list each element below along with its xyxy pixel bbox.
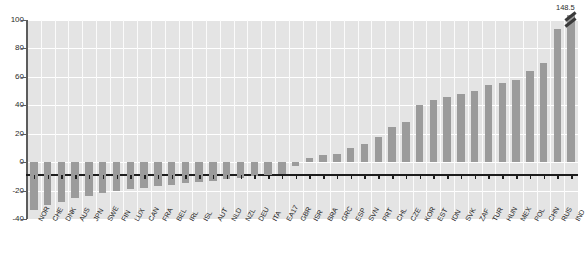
x-axis-tick: [296, 175, 298, 179]
x-axis-tick: [475, 175, 477, 179]
x-axis-tick: [364, 175, 366, 179]
x-axis-tick: [337, 175, 339, 179]
x-axis-tick: [282, 175, 284, 179]
bar: [402, 122, 409, 162]
x-axis-tick: [351, 175, 353, 179]
bar: [278, 162, 285, 173]
bar: [333, 154, 340, 163]
bar: [182, 162, 189, 183]
bar: [195, 162, 202, 182]
bar: [58, 162, 65, 202]
bar: [499, 83, 506, 163]
bar: [512, 80, 519, 162]
x-axis-tick: [185, 175, 187, 179]
x-axis-tick: [117, 175, 119, 179]
bar: [416, 105, 423, 162]
bar: [347, 148, 354, 162]
x-axis-tick: [130, 175, 132, 179]
x-axis-tick: [530, 175, 532, 179]
x-axis-tick: [103, 175, 105, 179]
x-axis-tick: [227, 175, 229, 179]
y-axis-tick: [21, 134, 27, 135]
y-axis-tick: [21, 77, 27, 78]
y-axis-tick: [21, 105, 27, 106]
bar: [375, 137, 382, 163]
x-axis-tick: [158, 175, 160, 179]
x-axis-tick: [378, 175, 380, 179]
x-axis-tick: [488, 175, 490, 179]
y-axis-tick: [21, 219, 27, 220]
x-axis-tick: [241, 175, 243, 179]
x-axis-tick: [516, 175, 518, 179]
bar: [264, 162, 271, 175]
bar: [540, 63, 547, 163]
x-axis-tick: [447, 175, 449, 179]
x-axis-tick: [144, 175, 146, 179]
x-axis-tick: [544, 175, 546, 179]
bar: [443, 97, 450, 162]
x-axis-tick: [75, 175, 77, 179]
bar: [44, 162, 51, 205]
bar: [30, 162, 37, 210]
x-axis-tick: [557, 175, 559, 179]
x-axis-tick: [61, 175, 63, 179]
bar-value-annotation: 148.5: [556, 4, 575, 12]
bar: [526, 71, 533, 162]
x-axis-tick: [48, 175, 50, 179]
bar: [471, 91, 478, 162]
x-axis-tick: [254, 175, 256, 179]
bar: [554, 29, 561, 163]
x-axis-tick: [433, 175, 435, 179]
y-axis-tick: [21, 20, 27, 21]
x-axis-tick: [392, 175, 394, 179]
x-axis-tick: [213, 175, 215, 179]
y-axis-tick: [21, 162, 27, 163]
bar: [71, 162, 78, 198]
x-axis-tick: [406, 175, 408, 179]
bar: [485, 85, 492, 162]
bar: [361, 144, 368, 162]
x-axis-tick: [461, 175, 463, 179]
bar: [388, 127, 395, 163]
bar: [567, 15, 574, 162]
bar: [319, 155, 326, 162]
bar: [85, 162, 92, 196]
bar: [306, 158, 313, 162]
x-axis-tick: [172, 175, 174, 179]
x-axis-tick: [323, 175, 325, 179]
bar: [457, 94, 464, 162]
x-axis-tick: [571, 175, 573, 179]
bar: [430, 100, 437, 163]
x-axis-tick: [268, 175, 270, 179]
x-axis-tick: [420, 175, 422, 179]
x-axis-tick: [309, 175, 311, 179]
x-axis-tick: [502, 175, 504, 179]
y-axis-tick: [21, 191, 27, 192]
y-axis-tick: [21, 48, 27, 49]
x-axis-labels: NORCHEDNKAUSJPNSWEFINLUXCANFRABELIRLISLA…: [0, 219, 580, 261]
bar: [168, 162, 175, 185]
bar: [292, 162, 299, 166]
x-axis-tick: [89, 175, 91, 179]
x-axis-tick: [199, 175, 201, 179]
x-axis-tick: [34, 175, 36, 179]
